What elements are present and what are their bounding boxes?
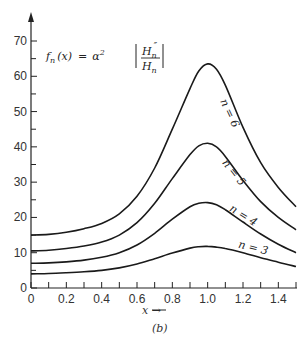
y-tick-label: 50: [14, 105, 28, 119]
x-tick-label: 0: [28, 292, 35, 306]
x-tick-label: 0.2: [58, 292, 75, 306]
figure-caption: (b): [152, 322, 168, 335]
formula: fn(x)=α2 Hn″ Hn: [45, 41, 163, 75]
formula-lhs: fn(x)=α2: [45, 48, 105, 65]
x-axis-title: x →: [142, 304, 166, 317]
formula-denominator: Hn: [141, 60, 157, 75]
curve-n5: [31, 143, 296, 251]
curve-n6: [31, 64, 296, 235]
x-tick-label: 0.4: [93, 292, 110, 306]
curve-label: n = 6: [217, 97, 242, 130]
y-tick-label: 10: [14, 246, 28, 260]
curve-label: n = 5: [219, 157, 248, 189]
y-tick-label: 40: [14, 140, 28, 154]
x-tick-label: 1.0: [199, 292, 216, 306]
y-axis-arrow-icon: [28, 12, 34, 22]
curve-labels: n = 3n = 4n = 5n = 6: [217, 97, 269, 258]
y-tick-label: 60: [14, 69, 28, 83]
y-tick-label: 20: [14, 210, 28, 224]
y-tick-label: 0: [20, 281, 27, 295]
y-tick-label: 70: [14, 34, 28, 48]
formula-numerator: Hn″: [141, 41, 158, 60]
chart: 010203040506070 00.20.40.60.81.01.21.4 n…: [0, 0, 308, 343]
y-tick-label: 30: [14, 175, 28, 189]
x-tick-label: 1.4: [270, 292, 287, 306]
curve-label: n = 3: [237, 238, 270, 258]
x-tick-label: 0.8: [164, 292, 181, 306]
x-axis: 00.20.40.60.81.01.21.4: [28, 282, 297, 306]
x-tick-label: 1.2: [235, 292, 252, 306]
curve-label: n = 4: [227, 202, 260, 229]
y-axis: 010203040506070: [14, 12, 37, 295]
